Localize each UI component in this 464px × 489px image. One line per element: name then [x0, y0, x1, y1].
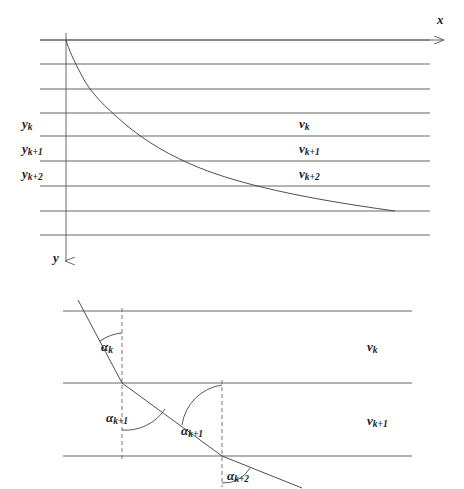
y-axis-label: y	[53, 251, 59, 264]
angle-label-alpha-k1-lower: αk+1	[181, 424, 203, 440]
raypath-curve	[66, 40, 395, 211]
depth-label-yk2-subscript: k+2	[28, 172, 43, 182]
velocity-label-vk-top-subscript: k	[305, 122, 310, 132]
angle-arc-alpha-k1-lower	[182, 385, 222, 425]
angle-label-alpha-k1-lower-subscript: k+1	[188, 429, 203, 439]
angle-label-alpha-k1-upper: αk+1	[106, 411, 128, 427]
depth-label-yk-subscript: k	[28, 122, 33, 132]
angle-arc-alpha-k1-upper	[122, 409, 165, 430]
velocity-label-vk2-top: vk+2	[299, 167, 320, 183]
velocity-label-vk-bottom-subscript: k	[373, 345, 378, 355]
angle-arcs	[100, 333, 250, 483]
top-panel-layer-lines	[40, 40, 430, 235]
velocity-label-vk1-top: vk+1	[299, 142, 320, 158]
depth-label-yk2: yk+2	[22, 167, 43, 183]
velocity-label-vk-top: vk	[299, 117, 310, 133]
normal-dashed-lines	[122, 308, 222, 487]
angle-label-alpha-k2: αk+2	[227, 469, 249, 485]
velocity-label-vk-bottom: vk	[367, 340, 378, 356]
velocity-label-vk2-top-subscript: k+2	[305, 172, 320, 182]
depth-label-yk1: yk+1	[22, 142, 43, 158]
velocity-label-vk1-bottom-subscript: k+1	[373, 419, 388, 429]
angle-label-alpha-k: αk	[101, 340, 113, 356]
velocity-label-vk1-top-subscript: k+1	[305, 147, 320, 157]
velocity-label-vk1-bottom: vk+1	[367, 414, 388, 430]
depth-label-yk1-subscript: k+1	[28, 147, 43, 157]
depth-label-yk: yk	[22, 117, 33, 133]
bottom-panel-interface-lines	[63, 311, 412, 456]
figure-vector-canvas	[0, 0, 464, 489]
angle-label-alpha-k1-upper-subscript: k+1	[113, 416, 128, 426]
angle-label-alpha-k-subscript: k	[108, 345, 113, 355]
ray-refraction-figure: x y yk yk+1 yk+2 vk vk+1 vk+2 αk αk+1 αk…	[0, 0, 464, 489]
refracted-ray	[78, 300, 302, 488]
x-axis-label: x	[437, 13, 444, 26]
angle-label-alpha-k2-subscript: k+2	[234, 474, 249, 484]
